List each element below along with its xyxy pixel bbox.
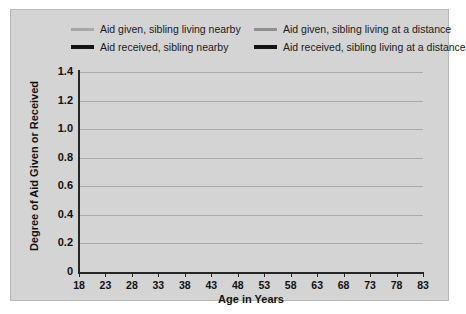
- y-tick-label: 1.0: [47, 122, 73, 134]
- y-tick-label: 1.4: [47, 65, 73, 77]
- x-tick: [264, 272, 265, 277]
- x-tick: [344, 272, 345, 277]
- y-tick-label: 0: [47, 265, 73, 277]
- x-tick: [132, 272, 133, 277]
- legend-label-aid-given-nearby: Aid given, sibling living nearby: [100, 23, 241, 35]
- x-tick: [370, 272, 371, 277]
- gridline: [79, 243, 423, 244]
- gridline: [79, 72, 423, 73]
- gridline: [79, 158, 423, 159]
- x-tick: [158, 272, 159, 277]
- legend-swatch-aid-received-nearby: [71, 45, 94, 49]
- x-tick: [317, 272, 318, 277]
- x-tick: [105, 272, 106, 277]
- y-tick-label: 1.2: [47, 94, 73, 106]
- x-tick-label: 83: [408, 279, 438, 291]
- x-tick: [291, 272, 292, 277]
- legend-row-2: Aid received, sibling nearby Aid receive…: [11, 41, 450, 58]
- x-axis-line: [78, 272, 424, 274]
- gridline: [79, 129, 423, 130]
- chart-figure: Aid given, sibling living nearby Aid giv…: [10, 9, 449, 301]
- y-axis-tick-labels: 00.20.40.60.81.01.21.4: [41, 10, 73, 314]
- legend-label-aid-received-nearby: Aid received, sibling nearby: [100, 41, 228, 53]
- y-tick-label: 0.2: [47, 236, 73, 248]
- legend-item-aid-received-nearby: Aid received, sibling nearby: [71, 41, 228, 53]
- plot-background: [79, 72, 423, 272]
- gridline: [79, 215, 423, 216]
- y-tick-label: 0.8: [47, 151, 73, 163]
- x-tick: [423, 272, 424, 277]
- legend-swatch-aid-given-distance: [254, 28, 277, 31]
- plot-area: [79, 72, 423, 272]
- y-tick-label: 0.6: [47, 179, 73, 191]
- legend-swatch-aid-given-nearby: [71, 28, 94, 31]
- x-axis-title: Age in Years: [79, 293, 423, 305]
- legend-item-aid-given-nearby: Aid given, sibling living nearby: [71, 23, 241, 35]
- x-tick: [185, 272, 186, 277]
- y-axis-title: Degree of Aid Given or Received: [28, 61, 40, 271]
- x-tick: [79, 272, 80, 277]
- y-axis-line: [78, 70, 80, 274]
- legend-swatch-aid-received-distance: [254, 45, 277, 49]
- legend-item-aid-given-distance: Aid given, sibling living at a distance: [254, 23, 451, 35]
- gridline: [79, 186, 423, 187]
- x-tick: [238, 272, 239, 277]
- y-tick-label: 0.4: [47, 208, 73, 220]
- x-tick: [397, 272, 398, 277]
- chart-legend: Aid given, sibling living nearby Aid giv…: [11, 23, 450, 63]
- x-tick: [211, 272, 212, 277]
- legend-row-1: Aid given, sibling living nearby Aid giv…: [11, 23, 450, 40]
- legend-label-aid-received-distance: Aid received, sibling living at a distan…: [283, 41, 466, 53]
- gridline: [79, 101, 423, 102]
- legend-label-aid-given-distance: Aid given, sibling living at a distance: [283, 23, 451, 35]
- legend-item-aid-received-distance: Aid received, sibling living at a distan…: [254, 41, 466, 53]
